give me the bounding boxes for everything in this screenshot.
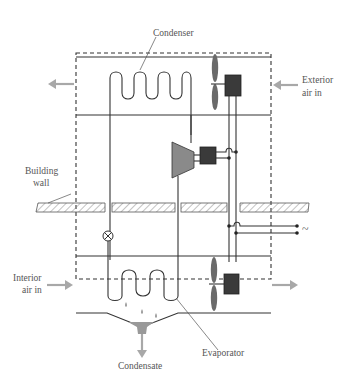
compressor (172, 142, 194, 178)
wall-leader (48, 194, 71, 203)
supply-wire-1 (229, 222, 297, 226)
collected-condensate (128, 322, 154, 334)
compressor-wire-1 (216, 148, 236, 152)
terminal-dot (295, 224, 299, 228)
evaporator-fan-blade (211, 257, 217, 283)
condensate-arrowhead (137, 350, 147, 358)
exterior-air-label-2: air in (302, 88, 322, 98)
junction-dot (234, 231, 238, 235)
interior-air-label-1: Interior (13, 273, 42, 283)
condenser-fan-blade (212, 54, 218, 82)
condensate-drop (125, 302, 127, 307)
evaporator-fan-motor (224, 274, 239, 294)
junction-dot (227, 224, 231, 228)
condensate-label: Condensate (118, 361, 162, 371)
building-wall (36, 203, 309, 212)
condenser-fan-blade (212, 84, 218, 110)
terminal-dot (295, 231, 299, 235)
condensate-drop (155, 313, 157, 318)
evaporator-fan-blade (211, 285, 217, 311)
condensate-drop (141, 309, 143, 314)
exterior-air-label-1: Exterior (302, 75, 334, 85)
building-wall-label-2: wall (33, 178, 50, 188)
evaporator-coil (108, 241, 178, 301)
compressor-motor (200, 147, 216, 164)
exhaust-air-arrowhead (48, 79, 56, 89)
expansion-valve (103, 231, 113, 241)
drain-pan (76, 313, 271, 325)
interior-air-label-2: air in (22, 285, 42, 295)
supply-air-arrowhead (290, 280, 298, 290)
interior-air-arrowhead (65, 280, 73, 290)
ac-diagram: ~ Condenser Exterior air in Building wal… (0, 0, 355, 386)
condenser-fan-motor (225, 75, 241, 96)
building-wall-label-1: Building (25, 166, 59, 176)
ac-supply-symbol: ~ (302, 222, 309, 236)
condenser-label: Condenser (153, 28, 194, 38)
evaporator-label: Evaporator (202, 348, 245, 358)
exterior-air-arrowhead (273, 80, 281, 90)
